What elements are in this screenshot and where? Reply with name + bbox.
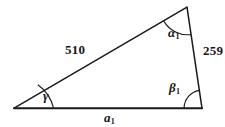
angle-label-alpha1-base: α: [168, 25, 175, 40]
side-259-line: [187, 7, 202, 108]
side-label-510: 510: [65, 43, 85, 56]
angle-label-gamma: γ: [43, 89, 48, 102]
side-label-259: 259: [203, 44, 223, 57]
angle-label-beta1-base: β: [169, 80, 176, 95]
side-label-a1-subscript: 1: [111, 117, 115, 126]
side-label-a1-base: a: [104, 110, 111, 125]
angle-label-beta1: β1: [169, 81, 180, 94]
angle-beta1-arc: [184, 90, 199, 108]
angle-label-alpha1-subscript: 1: [176, 32, 180, 41]
side-510-line: [15, 7, 188, 108]
triangle-drawing: [0, 0, 225, 127]
angle-label-alpha1: α1: [168, 26, 179, 39]
angle-label-beta1-subscript: 1: [176, 87, 180, 96]
triangle-figure: 510 259 a1 α1 β1 γ: [0, 0, 225, 127]
side-label-a1: a1: [104, 111, 115, 124]
